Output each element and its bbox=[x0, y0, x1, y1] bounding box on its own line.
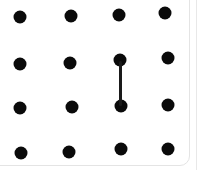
grid-dot[interactable] bbox=[159, 7, 172, 20]
adjacent-board-edge bbox=[196, 0, 200, 170]
grid-dot[interactable] bbox=[115, 143, 128, 156]
grid-dot[interactable] bbox=[162, 52, 175, 65]
grid-dot[interactable] bbox=[14, 102, 27, 115]
grid-dot[interactable] bbox=[64, 57, 77, 70]
grid-dot[interactable] bbox=[14, 11, 27, 24]
game-board bbox=[0, 0, 190, 166]
grid-dot[interactable] bbox=[162, 143, 175, 156]
grid-dot[interactable] bbox=[65, 10, 78, 23]
grid-dot[interactable] bbox=[15, 147, 28, 160]
grid-dot[interactable] bbox=[66, 101, 79, 114]
grid-dot[interactable] bbox=[113, 9, 126, 22]
grid-dot[interactable] bbox=[14, 58, 27, 71]
grid-dot[interactable] bbox=[63, 146, 76, 159]
grid-dot[interactable] bbox=[162, 99, 175, 112]
drawn-line bbox=[119, 61, 122, 106]
